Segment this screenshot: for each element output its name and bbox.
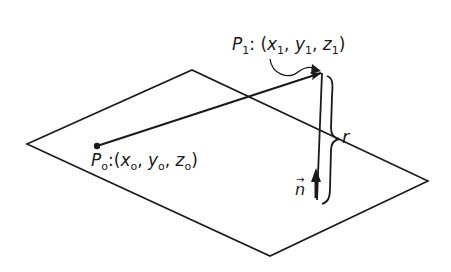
- p0-subscript: o: [101, 160, 108, 173]
- p0-close-paren: ): [191, 150, 198, 170]
- p1-close-paren: ): [339, 34, 346, 54]
- label-normal-n: → n: [295, 182, 305, 198]
- p1-pointer-curve: [270, 59, 318, 76]
- p1-x: x: [267, 34, 277, 54]
- distance-brace: [322, 76, 339, 204]
- normal-vector-arrowhead: [311, 168, 321, 182]
- p1-name: P: [232, 34, 242, 54]
- p1-sep-1: ,: [284, 34, 289, 54]
- plane: [27, 70, 428, 256]
- vector-p0-to-p1: [97, 73, 321, 146]
- p1-y-subscript: 1: [305, 44, 312, 57]
- p1-z: z: [323, 34, 332, 54]
- label-p0: Po:(xo, yo, zo): [91, 152, 198, 172]
- p0-z: z: [176, 150, 185, 170]
- label-distance-r: r: [342, 128, 349, 146]
- p1-y: y: [295, 34, 305, 54]
- point-plane-distance-diagram: [0, 0, 451, 272]
- vector-overarrow-icon: →: [296, 175, 304, 185]
- p0-name: P: [91, 150, 101, 170]
- p0-x: x: [120, 150, 130, 170]
- p1-z-subscript: 1: [332, 44, 339, 57]
- p0-y-subscript: o: [158, 160, 165, 173]
- point-p0-dot: [94, 143, 100, 149]
- p0-sep-1: ,: [137, 150, 142, 170]
- distance-r: r: [342, 126, 349, 147]
- label-p1: P1: (x1, y1, z1): [232, 36, 345, 56]
- p0-y: y: [148, 150, 158, 170]
